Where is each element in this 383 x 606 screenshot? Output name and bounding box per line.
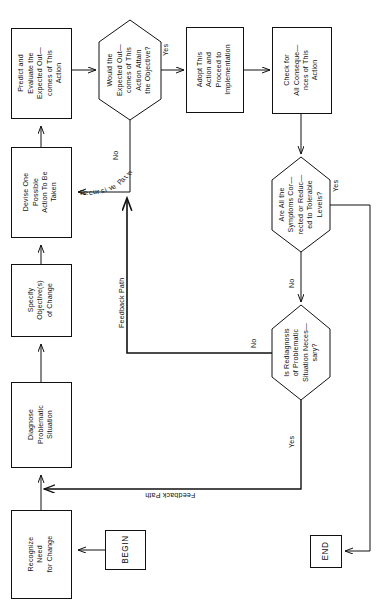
edge-label-recursive-path: Recursive Path	[80, 175, 140, 201]
edge-rediagnosis-feedback-lower	[44, 400, 301, 489]
node-shape-recognize	[12, 511, 72, 599]
node-shape-rediagnosis	[272, 305, 330, 400]
node-shape-diagnose	[12, 383, 72, 468]
edge-label-rediagnosis-no: No	[250, 339, 258, 348]
edge-label-rediagnosis-yes: Yes	[288, 436, 296, 448]
edge-label-attain-no: No	[112, 151, 120, 160]
node-shape-check	[273, 28, 332, 114]
node-shape-predict	[12, 29, 72, 119]
edge-label-symptoms-no: No	[288, 279, 296, 288]
edge-label-attain-yes: Yes	[162, 44, 170, 56]
node-shape-adopt	[187, 28, 244, 113]
node-shape-begin	[106, 531, 146, 570]
node-shape-attain	[99, 20, 161, 120]
node-shape-devise	[12, 148, 72, 238]
edge-symptoms-end	[330, 205, 370, 551]
edge-label-feedback-path-lower: Feedback Path	[145, 491, 195, 499]
edge-label-feedback-path-upper: Feedback Path	[118, 278, 126, 328]
recursive-path-char: h	[125, 170, 134, 176]
flowchart-graphics	[0, 0, 383, 606]
node-shape-symptoms	[272, 157, 330, 252]
node-shape-specify	[12, 265, 72, 337]
edge-rediagnosis-feedback-upper	[127, 198, 272, 353]
node-shape-end	[311, 536, 342, 568]
edge-label-symptoms-yes: Yes	[332, 180, 340, 192]
flowchart-canvas: Predict and Evaluate the Expected Out— c…	[0, 0, 383, 606]
